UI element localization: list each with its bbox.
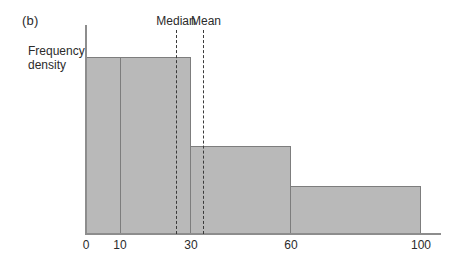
- panel-label: (b): [22, 13, 39, 28]
- y-axis-title-line-2: density: [28, 59, 84, 73]
- x-tick-label-10: 10: [113, 238, 126, 252]
- y-axis-title: Frequency density: [28, 45, 84, 72]
- histogram-bar-60-100: [290, 186, 421, 234]
- x-tick-label-0: 0: [83, 238, 90, 252]
- x-tick-label-100: 100: [411, 238, 431, 252]
- median-marker-label: Median: [156, 14, 195, 28]
- x-axis-line: [85, 233, 441, 235]
- histogram-figure: (b) Frequency density Median Mean 0 10 3…: [0, 0, 457, 266]
- bar-internal-divider-10: [120, 58, 121, 233]
- y-axis-line: [85, 25, 87, 234]
- x-tick-label-30: 30: [184, 238, 197, 252]
- mean-marker-label: Mean: [191, 14, 221, 28]
- median-reference-line: [176, 30, 177, 234]
- histogram-bar-30-60: [190, 146, 291, 234]
- mean-reference-line: [203, 30, 204, 234]
- x-tick-label-60: 60: [284, 238, 297, 252]
- y-axis-title-line-1: Frequency: [28, 45, 84, 59]
